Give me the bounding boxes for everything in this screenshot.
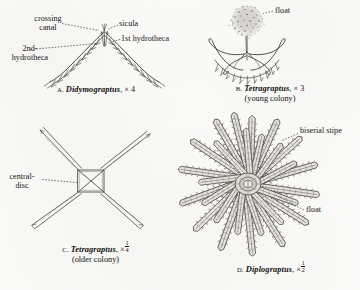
caption-b-magnification: × 3 <box>294 84 305 93</box>
label-central-disc-line2: disc <box>15 181 28 190</box>
label-float-b: float <box>275 6 290 15</box>
central-disc-shape <box>78 170 104 192</box>
figure-d-diplograptus: biserial stipe float <box>180 112 360 257</box>
leader-sicula <box>109 25 119 29</box>
label-float-d: float <box>306 205 321 214</box>
caption-d-magnification-prefix: × <box>296 265 301 274</box>
leader-central-disc <box>42 180 77 183</box>
label-crossing-canal-line1: crossing <box>34 14 61 23</box>
label-central-disc: central- disc <box>2 172 42 190</box>
float-mass <box>229 6 265 39</box>
caption-figure-b: B. Tetragraptus, × 3 (young colony) <box>195 84 345 104</box>
label-biserial-stipe: biserial stipe <box>300 126 342 135</box>
caption-c-magnification-prefix: × <box>120 245 125 254</box>
label-crossing-canal: crossing canal <box>26 14 70 32</box>
label-second-hydrotheca: 2nd- hydrotheca <box>2 44 58 62</box>
caption-d-genus: Diplograptus <box>246 265 292 274</box>
label-crossing-canal-line2: canal <box>39 23 56 32</box>
caption-b-letter: B. <box>236 85 242 92</box>
caption-c-letter: C. <box>62 246 68 253</box>
label-first-hydrotheca: 1st hydrotheca <box>121 34 169 43</box>
caption-c-fraction: 14 <box>125 240 129 253</box>
caption-a-letter: A. <box>57 86 64 93</box>
caption-d-fraction: 12 <box>301 260 305 273</box>
caption-figure-a: A. Didymograptus, × 4 <box>16 85 176 95</box>
caption-b-subtitle: (young colony) <box>195 94 345 104</box>
figure-c-tetragraptus-older: central- disc <box>0 112 185 240</box>
label-second-hydrotheca-line2: hydrotheca <box>12 53 48 62</box>
caption-c-fraction-denominator: 4 <box>125 246 129 253</box>
label-second-hydrotheca-line1: 2nd- <box>22 44 37 53</box>
label-sicula: sicula <box>119 19 138 28</box>
caption-c-genus: Tetragraptus <box>71 245 116 254</box>
caption-b-genus: Tetragraptus <box>244 84 289 93</box>
caption-a-magnification: × 4 <box>124 85 135 94</box>
caption-c-subtitle: (older colony) <box>18 255 173 265</box>
leader-float-b <box>263 11 273 14</box>
figure-plate: crossing canal sicula 1st hydrotheca 2nd… <box>0 0 360 290</box>
caption-d-letter: D. <box>237 266 244 273</box>
bottom-clipped-text <box>0 281 360 290</box>
caption-a-genus: Didymograptus <box>66 85 120 94</box>
caption-figure-d: D. Diplograptus, ×12 <box>196 260 346 275</box>
float-disc-d <box>235 173 261 195</box>
label-central-disc-line1: central- <box>9 172 34 181</box>
caption-figure-c: C. Tetragraptus, ×14 (older colony) <box>18 240 173 265</box>
caption-d-fraction-denominator: 2 <box>301 266 305 273</box>
